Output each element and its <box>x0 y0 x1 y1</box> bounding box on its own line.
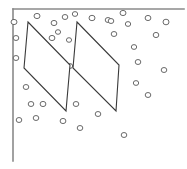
particle-circle <box>60 118 66 123</box>
particle-circle <box>77 126 83 131</box>
figure-container <box>0 0 187 169</box>
particle-circle <box>49 35 55 40</box>
particle-circle <box>108 19 114 24</box>
particle-circle <box>121 133 127 138</box>
particle-circle <box>153 32 159 37</box>
particle-circle <box>51 20 57 25</box>
particle-circle <box>13 56 19 61</box>
particle-circle <box>66 38 71 43</box>
particle-circle <box>62 15 68 20</box>
particle-circle <box>125 22 130 27</box>
particle-circle <box>73 102 79 107</box>
particle-circle <box>135 60 141 65</box>
particle-circle <box>133 81 138 86</box>
particle-circle <box>131 45 136 50</box>
particle-circle <box>40 101 46 106</box>
particle-circle <box>72 12 77 17</box>
particle-circle <box>55 30 60 35</box>
particle-circle <box>16 118 22 123</box>
particle-circle <box>95 112 101 117</box>
particle-circle <box>28 102 34 107</box>
particle-circle <box>161 68 167 73</box>
particle-circle <box>145 15 151 20</box>
particle-circle <box>34 13 40 18</box>
particle-circle <box>11 19 17 24</box>
particle-circle <box>111 32 117 37</box>
figure-svg <box>0 0 187 169</box>
particle-circle <box>163 19 169 25</box>
particle-circle <box>145 93 151 98</box>
particle-circle <box>89 15 95 20</box>
particle-circle <box>33 116 39 121</box>
particle-circle <box>120 10 126 15</box>
particle-circle <box>13 36 19 41</box>
particle-circle <box>23 85 29 90</box>
